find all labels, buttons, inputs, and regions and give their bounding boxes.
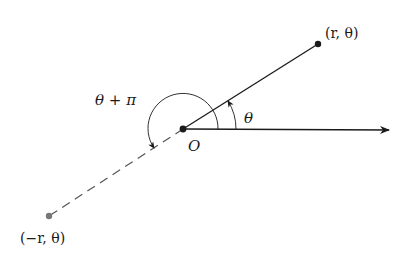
polar-diagram: (r, θ) (−r, θ) O θ θ + π — [0, 0, 407, 253]
ray-negative-dashed — [49, 129, 183, 216]
origin-point — [180, 126, 187, 133]
point-positive — [315, 41, 321, 47]
point-negative — [46, 213, 52, 219]
theta-plus-pi-arc — [148, 93, 218, 148]
label-point-positive: (r, θ) — [325, 25, 358, 41]
label-origin: O — [188, 137, 200, 155]
label-theta-plus-pi: θ + π — [95, 91, 137, 109]
label-theta: θ — [244, 109, 253, 127]
theta-angle-arc — [228, 101, 236, 129]
polar-axis — [183, 129, 389, 130]
label-point-negative: (−r, θ) — [20, 230, 65, 246]
